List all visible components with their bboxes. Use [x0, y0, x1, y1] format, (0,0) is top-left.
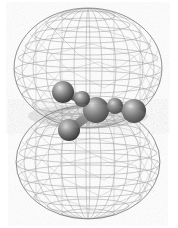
orbital-node-plane: [28, 104, 148, 128]
orbital-canvas: [0, 0, 178, 228]
atom-upper-left: [52, 81, 74, 103]
molecular-orbital-figure: Molecular orbital isosurface Two-lobed w…: [0, 0, 178, 228]
